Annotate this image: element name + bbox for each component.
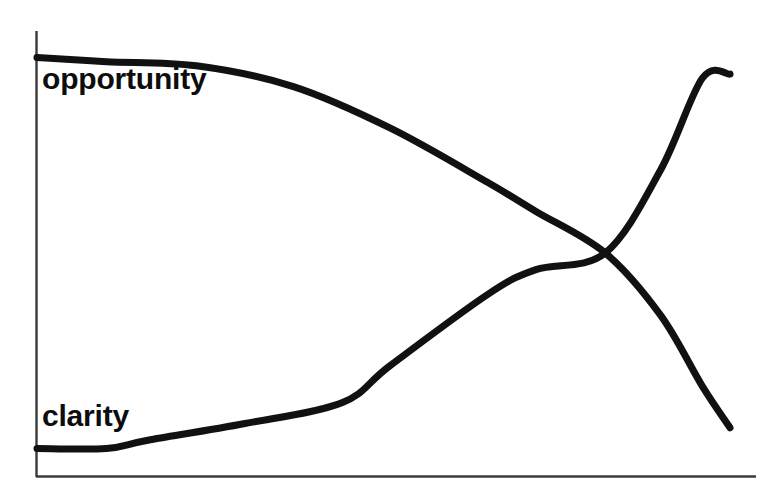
series-label-opportunity: opportunity (42, 64, 206, 94)
chart-canvas: opportunity clarity (0, 0, 776, 503)
series-label-clarity: clarity (42, 401, 129, 431)
